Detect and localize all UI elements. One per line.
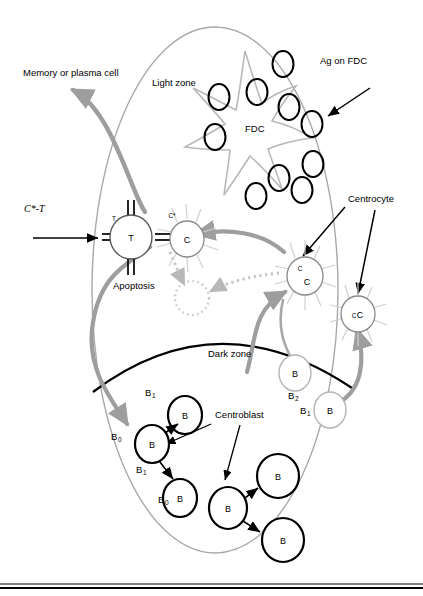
centrocyte-activated: C C* bbox=[157, 204, 218, 272]
centroblast-b1-lower-tag: B bbox=[136, 464, 142, 475]
b-cell-b1-right-glyph: B bbox=[327, 406, 333, 416]
dark-zone-label: Dark zone bbox=[208, 348, 251, 359]
antigen-oval bbox=[279, 94, 300, 120]
centrocyte-activated-glyph: C bbox=[184, 235, 191, 245]
centrocyte-to-darkzone-arrow bbox=[281, 300, 292, 360]
centroblast-daughter-upper: B bbox=[257, 454, 299, 498]
b-cell-b1-right: B B 1 bbox=[300, 392, 346, 428]
ag-on-fdc-pointer-arrow bbox=[328, 88, 370, 116]
t-cell-corner-glyph: T bbox=[112, 215, 116, 222]
centrocyte-to-activated-arrow bbox=[196, 231, 284, 252]
b-cell-b2: B B 2 bbox=[279, 355, 311, 402]
centrocyte-activated-tag: C* bbox=[168, 212, 176, 219]
centroblast-b0-tag: B bbox=[111, 431, 117, 442]
antigen-oval bbox=[273, 51, 294, 77]
centrocyte-mid-glyph: C bbox=[304, 277, 311, 287]
centroblast-daughter-lower: B bbox=[262, 518, 304, 562]
centroblast-b1-upper-glyph: B bbox=[182, 411, 188, 421]
centroblast-pointer-arrow-2 bbox=[225, 425, 240, 480]
ag-on-fdc-label: Ag on FDC bbox=[320, 55, 367, 66]
centrocyte-pointer-arrow-2 bbox=[358, 210, 375, 294]
antigen-oval bbox=[302, 111, 323, 137]
centroblast-b1-lower-tag-sub: 1 bbox=[143, 469, 147, 476]
centrocyte-pointer-arrow-1 bbox=[303, 207, 345, 256]
b-cell-b2-glyph: B bbox=[292, 369, 298, 379]
t-cell: T T bbox=[102, 200, 170, 275]
centrocyte-right-glyph: C bbox=[357, 310, 364, 320]
b-cell-b1-right-tag: B bbox=[300, 405, 306, 416]
antigen-oval bbox=[247, 79, 268, 105]
b-cell-b1-right-tag-sub: 1 bbox=[307, 410, 311, 417]
memory-or-plasma-cell-label: Memory or plasma cell bbox=[23, 67, 119, 78]
antigen-oval bbox=[246, 183, 267, 209]
centroblast-parent-right: B bbox=[209, 487, 247, 529]
division-arrow-down-right bbox=[243, 521, 260, 532]
apoptosis-label: Apoptosis bbox=[113, 280, 155, 291]
centroblast-b1-lower-glyph: B bbox=[177, 494, 183, 504]
apoptosis-dotted-arrow-from-centrocyte bbox=[211, 273, 279, 291]
memory-plasma-exit-arrow bbox=[73, 90, 145, 212]
centroblast-daughter-upper-glyph: B bbox=[275, 472, 281, 482]
c-star-t-label: C*-T bbox=[24, 203, 46, 214]
centroblast-b1-upper-tag-sub: 1 bbox=[152, 392, 156, 399]
antigen-oval bbox=[292, 177, 313, 203]
centroblast-b0-glyph: B bbox=[149, 440, 155, 450]
fdc-label: FDC bbox=[245, 123, 265, 134]
centrocyte-mid-body bbox=[287, 257, 323, 295]
apoptotic-cell bbox=[175, 281, 209, 315]
centroblast-b0-tag-sub: 0 bbox=[118, 436, 122, 443]
centroblast-b0-tag-lower-sub: 0 bbox=[165, 499, 169, 506]
b-cell-b2-tag: B bbox=[288, 390, 294, 401]
centrocyte-label: Centrocyte bbox=[348, 193, 394, 204]
germinal-center-figure: T T C C* C C bbox=[0, 0, 423, 596]
light-zone-label: Light zone bbox=[152, 77, 196, 88]
centrocyte-mid-glyph-small: C bbox=[298, 265, 303, 272]
centroblast-daughter-lower-glyph: B bbox=[280, 536, 286, 546]
centroblast-b1-lower: B B 1 B 0 bbox=[136, 464, 197, 517]
apoptosis-flow-arrow bbox=[92, 247, 150, 424]
centroblast-b1-upper-tag: B bbox=[145, 387, 151, 398]
centroblast-parent-right-glyph: B bbox=[225, 504, 231, 514]
antigen-oval bbox=[205, 124, 226, 150]
division-arrow-down bbox=[160, 462, 173, 479]
centroblast-b0-tag-lower: B bbox=[158, 494, 164, 505]
centroblast-label: Centroblast bbox=[215, 409, 264, 420]
t-cell-glyph: T bbox=[128, 233, 134, 243]
b-cell-b2-tag-sub: 2 bbox=[295, 395, 299, 402]
dark-zone-to-centrocyte-arrow bbox=[247, 292, 285, 372]
antigen-oval bbox=[303, 151, 324, 177]
division-arrow-up-right bbox=[245, 488, 258, 498]
